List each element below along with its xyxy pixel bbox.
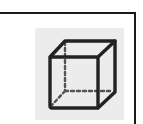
- cube-tool-button[interactable]: [35, 28, 124, 120]
